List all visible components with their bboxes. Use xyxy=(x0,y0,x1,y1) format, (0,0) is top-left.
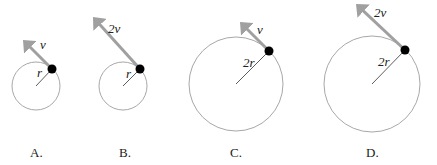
velocity-label: v xyxy=(40,37,46,52)
option-label: A. xyxy=(30,145,43,160)
radius-label: 2r xyxy=(243,55,256,70)
diagram-option-b: 2v r B. xyxy=(97,21,147,160)
velocity-label: 2v xyxy=(374,5,387,20)
radius-label: r xyxy=(126,66,132,81)
velocity-label: v xyxy=(257,22,263,37)
velocity-label: 2v xyxy=(108,21,121,36)
option-label: B. xyxy=(119,145,131,160)
particle-dot xyxy=(48,65,57,74)
radius-label: 2r xyxy=(378,54,391,69)
option-label: C. xyxy=(230,145,242,160)
particle-dot xyxy=(265,47,274,56)
particle-dot xyxy=(136,65,145,74)
diagram-option-d: 2v 2r D. xyxy=(324,5,420,160)
particle-dot xyxy=(401,46,410,55)
diagram-option-c: v 2r C. xyxy=(189,22,283,160)
radius-label: r xyxy=(37,65,43,80)
diagram-option-a: v r A. xyxy=(12,37,60,160)
circular-motion-diagram: v r A. 2v r B. v 2r C. 2v 2r D. xyxy=(0,0,437,165)
option-label: D. xyxy=(366,145,379,160)
